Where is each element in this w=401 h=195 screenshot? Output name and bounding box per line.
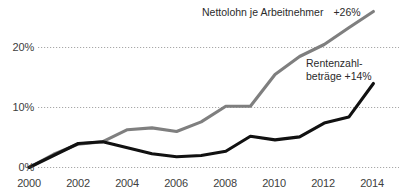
series-line-rentenzahlbetraege	[29, 84, 373, 168]
ytick-label-0: 0%	[0, 161, 34, 173]
xtick-label-2000: 2000	[7, 177, 51, 189]
xtick-label-2008: 2008	[203, 177, 247, 189]
line-chart-plot	[0, 0, 401, 195]
xtick-label-2014: 2014	[350, 177, 394, 189]
xtick-label-2002: 2002	[56, 177, 100, 189]
xtick-label-2012: 2012	[301, 177, 345, 189]
xtick-label-2006: 2006	[154, 177, 198, 189]
series-annotation-nettolohn-name: Nettolohn je Arbeitnehmer	[202, 6, 323, 18]
series-annotation-renten-line1: Rentenzahl-	[306, 57, 363, 69]
ytick-label-20: 20%	[0, 41, 34, 53]
xtick-label-2010: 2010	[252, 177, 296, 189]
xtick-label-2004: 2004	[105, 177, 149, 189]
series-annotation-rentenzahlbetraege: Rentenzahl- beträge +14%	[306, 57, 380, 82]
ytick-label-10: 10%	[0, 101, 34, 113]
series-annotation-nettolohn-percent: +26%	[333, 6, 360, 18]
chart-container: 20% 10% 0% 2000 2002 2004 2006 2008 2010…	[0, 0, 401, 195]
series-annotation-nettolohn: Nettolohn je Arbeitnehmer+26%	[202, 6, 361, 19]
series-annotation-renten-line2: beträge +14%	[306, 70, 372, 82]
